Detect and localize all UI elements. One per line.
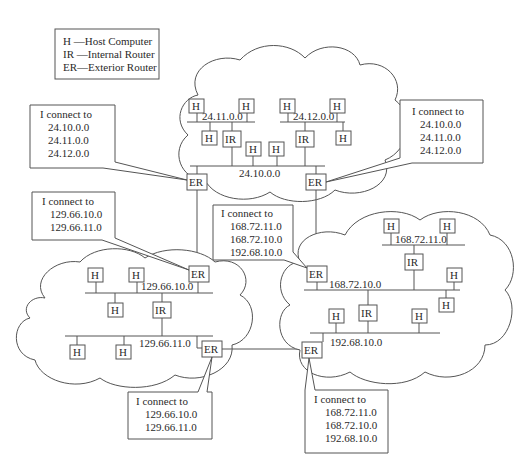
host-node: H	[129, 268, 144, 282]
svg-text:H: H	[332, 310, 340, 322]
internal-router-node: IR	[223, 131, 241, 147]
svg-text:ER: ER	[204, 343, 219, 355]
network-label-192-10: 192.68.10.0	[330, 336, 383, 348]
legend: H —Host Computer IR —Internal Router ER—…	[55, 29, 159, 79]
svg-text:H: H	[333, 100, 341, 112]
legend-exterior-router: ER—Exterior Router	[63, 61, 157, 73]
svg-text:I connect to: I connect to	[40, 108, 92, 120]
svg-text:24.10.0.0: 24.10.0.0	[420, 118, 462, 130]
svg-text:ER: ER	[191, 268, 206, 280]
svg-text:H: H	[192, 100, 200, 112]
svg-text:H: H	[91, 269, 99, 281]
network-label-24-10: 24.10.0.0	[239, 167, 281, 179]
svg-text:IR: IR	[407, 256, 419, 268]
svg-text:IR: IR	[298, 133, 310, 145]
host-node: H	[412, 309, 427, 323]
svg-text:IR: IR	[225, 133, 237, 145]
svg-text:I connect to: I connect to	[136, 395, 188, 407]
svg-text:168.72.10.0: 168.72.10.0	[325, 419, 378, 431]
svg-text:129.66.10.0: 129.66.10.0	[145, 408, 198, 420]
host-node: H	[246, 142, 261, 156]
exterior-router-node: ER	[307, 266, 327, 282]
svg-text:129.66.11.0: 129.66.11.0	[50, 221, 102, 233]
svg-text:24.12.0.0: 24.12.0.0	[420, 144, 462, 156]
svg-text:I connect to: I connect to	[42, 195, 94, 207]
host-node: H	[439, 298, 454, 312]
host-node: H	[440, 219, 455, 233]
svg-text:192.68.10.0: 192.68.10.0	[325, 432, 378, 444]
svg-text:IR: IR	[361, 307, 373, 319]
svg-text:H: H	[111, 304, 119, 316]
internal-router-node: IR	[296, 131, 314, 147]
network-label-129-11: 129.66.11.0	[139, 337, 191, 349]
svg-text:H: H	[242, 100, 250, 112]
exterior-router-node: ER	[306, 174, 326, 190]
svg-text:168.72.11.0: 168.72.11.0	[325, 406, 377, 418]
network-label-24-11: 24.11.0.0	[202, 110, 243, 122]
exterior-router-node: ER	[187, 174, 207, 190]
svg-text:129.66.10.0: 129.66.10.0	[50, 208, 103, 220]
svg-text:129.66.11.0: 129.66.11.0	[145, 421, 197, 433]
svg-text:24.12.0.0: 24.12.0.0	[48, 147, 90, 159]
svg-text:H: H	[339, 132, 347, 144]
svg-text:I connect to: I connect to	[412, 105, 464, 117]
exterior-router-node: ER	[202, 341, 222, 357]
host-node: H	[239, 99, 254, 113]
exterior-router-node: ER	[302, 342, 322, 358]
svg-text:H: H	[132, 269, 140, 281]
cloud-24-network	[179, 46, 408, 202]
network-label-168-10: 168.72.10.0	[329, 278, 382, 290]
svg-text:H: H	[73, 346, 81, 358]
svg-text:H: H	[272, 143, 280, 155]
host-node: H	[447, 268, 462, 282]
legend-host: H —Host Computer	[63, 35, 153, 47]
network-label-168-11: 168.72.11.0	[395, 233, 447, 245]
legend-internal-router: IR —Internal Router	[63, 48, 155, 60]
callout-top-left: I connect to 24.10.0.0 24.11.0.0 24.12.0…	[30, 105, 187, 180]
svg-text:H: H	[415, 310, 423, 322]
svg-text:192.68.10.0: 192.68.10.0	[230, 246, 283, 258]
network-label-129-10: 129.66.10.0	[141, 280, 194, 292]
host-node: H	[202, 131, 217, 145]
internal-router-node: IR	[405, 254, 423, 270]
host-node: H	[88, 268, 103, 282]
host-node: H	[116, 345, 131, 359]
svg-text:H: H	[442, 299, 450, 311]
internal-router-node: IR	[359, 305, 377, 321]
svg-text:ER: ER	[308, 176, 323, 188]
svg-text:24.11.0.0: 24.11.0.0	[48, 134, 89, 146]
svg-text:ER: ER	[304, 344, 319, 356]
svg-text:168.72.11.0: 168.72.11.0	[230, 220, 282, 232]
host-node: H	[280, 99, 295, 113]
svg-text:168.72.10.0: 168.72.10.0	[230, 233, 283, 245]
svg-text:H: H	[205, 132, 213, 144]
svg-text:H: H	[119, 346, 127, 358]
host-node: H	[329, 309, 344, 323]
svg-text:24.10.0.0: 24.10.0.0	[48, 121, 90, 133]
exterior-router-node: ER	[189, 266, 209, 282]
network-label-24-12: 24.12.0.0	[293, 110, 335, 122]
host-node: H	[269, 142, 284, 156]
svg-text:H: H	[450, 269, 458, 281]
host-node: H	[384, 219, 399, 233]
svg-text:H: H	[443, 220, 451, 232]
network-diagram: H —Host Computer IR —Internal Router ER—…	[0, 0, 525, 470]
svg-text:24.11.0.0: 24.11.0.0	[420, 131, 461, 143]
svg-text:I connect to: I connect to	[314, 393, 366, 405]
svg-text:I connect to: I connect to	[221, 207, 273, 219]
host-node: H	[336, 131, 351, 145]
host-node: H	[108, 303, 123, 317]
internal-router-node: IR	[153, 302, 171, 318]
host-node: H	[330, 99, 345, 113]
host-node: H	[70, 345, 85, 359]
svg-text:H: H	[387, 220, 395, 232]
svg-text:ER: ER	[309, 268, 324, 280]
svg-text:IR: IR	[155, 304, 167, 316]
callout-center: I connect to 168.72.11.0 168.72.10.0 192…	[213, 205, 307, 268]
svg-text:H: H	[249, 143, 257, 155]
svg-text:ER: ER	[189, 176, 204, 188]
host-node: H	[189, 99, 204, 113]
svg-text:H: H	[283, 100, 291, 112]
